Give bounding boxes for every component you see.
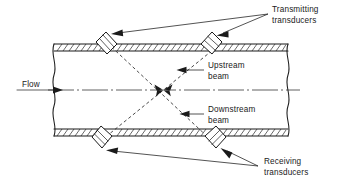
leader-downstream-beam [180, 111, 205, 117]
label-downstream-line2: beam [208, 116, 229, 125]
label-receiving-line2: transducers [264, 168, 308, 177]
label-receiving-line1: Receiving [264, 157, 302, 166]
pipe-bottom-wall [54, 129, 288, 136]
top-wall-hatching [57, 44, 286, 51]
label-flow: Flow [22, 80, 40, 89]
leader-upstream-beam [177, 67, 205, 73]
label-upstream-line2: beam [208, 72, 229, 81]
ultrasonic-flowmeter-diagram: Flow Transmitting transducers Upstream b… [0, 0, 342, 188]
label-upstream-line1: Upstream [208, 61, 245, 70]
bottom-wall-hatching [57, 129, 286, 136]
label-transmitting-line2: transducers [272, 16, 316, 25]
leader-transmitting-transducers [111, 14, 268, 38]
diagram-canvas: Flow Transmitting transducers Upstream b… [0, 0, 342, 188]
pipe-top-wall [54, 44, 288, 51]
label-downstream-line1: Downstream [208, 105, 255, 114]
label-transmitting-line1: Transmitting [272, 5, 319, 14]
leader-receiving-transducers [106, 147, 258, 166]
